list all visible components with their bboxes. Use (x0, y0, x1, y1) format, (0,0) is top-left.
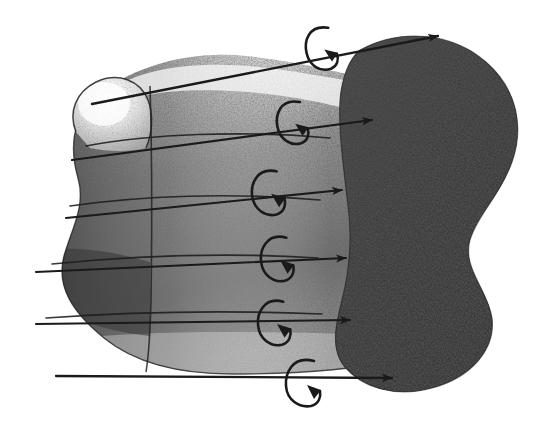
paper-grain-overlay (0, 0, 542, 431)
figure-root: Stippled pen-and-ink diagram of a deform… (0, 0, 542, 431)
deformation-illustration: Stippled pen-and-ink diagram of a deform… (0, 0, 542, 431)
